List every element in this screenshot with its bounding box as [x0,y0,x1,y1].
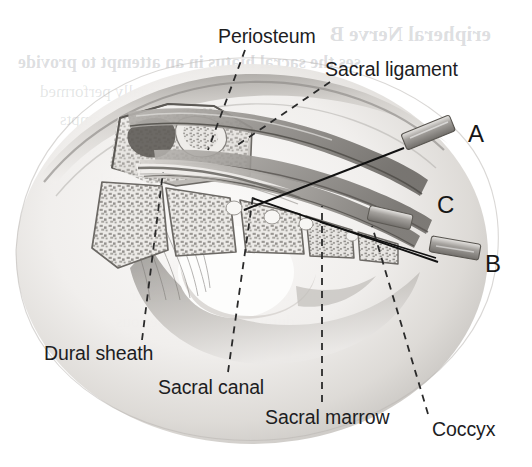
caudal-block-figure: eripheral Nerve Bses the sacral hiatus i… [0,0,532,467]
label-sacral-ligament: Sacral ligament [325,60,458,80]
marker-c: C [437,193,454,217]
label-dural-sheath: Dural sheath [44,344,153,364]
marker-b: B [485,252,501,276]
label-coccyx: Coccyx [432,420,495,440]
label-periosteum: Periosteum [218,27,316,47]
label-sacral-marrow: Sacral marrow [265,408,389,428]
label-sacral-canal: Sacral canal [158,378,264,398]
marker-a: A [468,122,484,146]
